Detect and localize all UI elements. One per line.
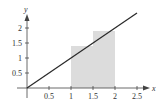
x-tick-label: 1.5	[88, 92, 98, 101]
y-tick-label: 0.5	[12, 69, 22, 78]
y-tick-label: 1.5	[12, 39, 22, 48]
x-axis-arrow-icon	[143, 86, 150, 91]
x-tick-label: 2.5	[132, 92, 142, 101]
x-axis-label: x	[151, 84, 156, 93]
y-tick-label: 1	[18, 54, 22, 63]
riemann-rect-2	[93, 31, 115, 88]
x-tick-label: 1	[69, 92, 73, 101]
x-tick-label: 2	[113, 92, 117, 101]
y-axis-label: y	[23, 5, 28, 14]
riemann-rect-1	[71, 46, 93, 88]
y-axis-arrow-icon	[25, 14, 30, 21]
y-tick-label: 2	[18, 24, 22, 33]
chart: 0.5 1 1.5 2 2.5 0.5 1 1.5 2 x y	[0, 0, 158, 105]
x-tick-label: 0.5	[44, 92, 54, 101]
